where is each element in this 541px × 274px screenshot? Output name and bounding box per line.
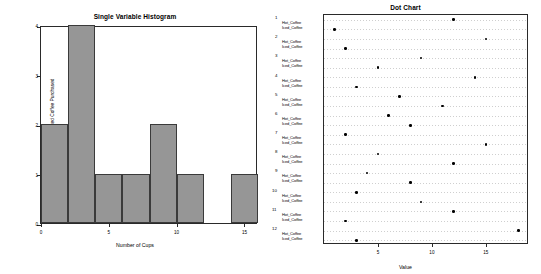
histogram-y-tick-label: 2 (29, 123, 38, 128)
dotchart-group-number: 11 (272, 207, 277, 212)
dotchart-series-label: Iced_Coffee (282, 44, 302, 49)
dotchart-group-number: 5 (275, 92, 277, 97)
charts-page: Single Variable Histogram Frequency of I… (0, 0, 541, 274)
dotchart-gridline (324, 144, 527, 145)
dotchart-series-label: Iced_Coffee (282, 102, 302, 107)
dotchart-data-point (344, 47, 347, 50)
histogram-bar (122, 174, 149, 224)
dotchart-x-tick-label: 10 (425, 250, 439, 255)
dotchart-data-point (452, 18, 455, 21)
dotchart-group-number: 10 (272, 188, 277, 193)
histogram-title: Single Variable Histogram (0, 13, 270, 20)
histogram-y-tick-label: 0 (29, 222, 38, 227)
histogram-x-tick-mark (41, 223, 42, 227)
histogram-x-tick-label: 15 (237, 230, 251, 235)
dotchart-data-point (517, 229, 520, 232)
dotchart-data-point (344, 133, 347, 136)
dotchart-group-number: 12 (272, 226, 277, 231)
dotchart-gridline (324, 39, 527, 40)
histogram-bar (41, 124, 68, 223)
dotchart-gridline (324, 183, 527, 184)
dotchart-plot-area: 51015 (323, 14, 528, 244)
dotchart-gridline (324, 77, 527, 78)
dotchart-title: Dot Chart (270, 4, 541, 11)
histogram-x-tick-mark (244, 223, 245, 227)
dotchart-series-label: Iced_Coffee (282, 198, 302, 203)
dotchart-gridline (324, 173, 527, 174)
histogram-x-axis-label: Number of Cups (0, 242, 270, 248)
dotchart-x-tick-mark (486, 243, 487, 247)
dotchart-series-label: Iced_Coffee (282, 178, 302, 183)
dotchart-data-point (409, 124, 412, 127)
dotchart-data-point (355, 86, 358, 89)
dotchart-group-number: 3 (275, 53, 277, 58)
dotchart-x-axis-label: Value (270, 264, 541, 270)
dotchart-gridline (324, 221, 527, 222)
histogram-x-tick-mark (177, 223, 178, 227)
dotchart-group-number: 6 (275, 111, 277, 116)
dotchart-series-label: Iced_Coffee (282, 236, 302, 241)
dotchart-x-tick-label: 15 (479, 250, 493, 255)
dotchart-data-point (333, 28, 336, 31)
dotchart-gridline (324, 211, 527, 212)
histogram-bar (95, 174, 122, 224)
histogram-y-tick-label: 1 (29, 173, 38, 178)
dotchart-gridline (324, 164, 527, 165)
dotchart-gridline (324, 20, 527, 21)
dotchart-group-number: 8 (275, 149, 277, 154)
dotchart-data-point (452, 162, 455, 165)
histogram-bar (150, 124, 177, 223)
dotchart-data-point (474, 76, 477, 79)
dotchart-series-label: Iced_Coffee (282, 159, 302, 164)
dotchart-group-number: 7 (275, 130, 277, 135)
histogram-bar (231, 174, 258, 224)
dotchart-panel: Dot Chart 1Hot_CoffeeIced_Coffee2Hot_Cof… (270, 0, 541, 274)
dotchart-series-label: Iced_Coffee (282, 63, 302, 68)
dotchart-data-point (452, 210, 455, 213)
dotchart-group-number: 4 (275, 73, 277, 78)
dotchart-x-tick-mark (432, 243, 433, 247)
histogram-x-tick-label: 10 (170, 230, 184, 235)
dotchart-data-point (387, 114, 390, 117)
histogram-x-tick-label: 0 (34, 230, 48, 235)
dotchart-gridline (324, 29, 527, 30)
histogram-y-tick-label: 4 (29, 24, 38, 29)
dotchart-series-label: Iced_Coffee (282, 25, 302, 30)
dotchart-data-point (355, 239, 358, 242)
dotchart-group-number: 1 (275, 15, 277, 20)
histogram-y-tick-label: 3 (29, 74, 38, 79)
dotchart-group-number: 2 (275, 34, 277, 39)
histogram-panel: Single Variable Histogram Frequency of I… (0, 0, 270, 274)
dotchart-gridline (324, 49, 527, 50)
dotchart-data-point (355, 191, 358, 194)
dotchart-series-label: Iced_Coffee (282, 217, 302, 222)
dotchart-gridline (324, 202, 527, 203)
dotchart-gridline (324, 96, 527, 97)
dotchart-gridline (324, 135, 527, 136)
dotchart-x-tick-mark (378, 243, 379, 247)
dotchart-gridline (324, 106, 527, 107)
histogram-bar (177, 174, 204, 224)
histogram-x-tick-mark (109, 223, 110, 227)
dotchart-data-point (398, 95, 401, 98)
dotchart-series-label: Iced_Coffee (282, 83, 302, 88)
dotchart-gridline (324, 154, 527, 155)
dotchart-series-label: Iced_Coffee (282, 140, 302, 145)
histogram-bar (68, 25, 95, 223)
dotchart-group-number: 9 (275, 168, 277, 173)
dotchart-gridline (324, 116, 527, 117)
dotchart-x-tick-label: 5 (371, 250, 385, 255)
dotchart-data-point (485, 143, 488, 146)
dotchart-gridline (324, 125, 527, 126)
dotchart-gridline (324, 231, 527, 232)
dotchart-gridline (324, 58, 527, 59)
dotchart-gridline (324, 68, 527, 69)
histogram-x-tick-label: 5 (102, 230, 116, 235)
dotchart-data-point (409, 181, 412, 184)
histogram-plot-area: Frequency of Iced Coffee Purchased 01234… (40, 26, 257, 224)
dotchart-series-label: Iced_Coffee (282, 121, 302, 126)
